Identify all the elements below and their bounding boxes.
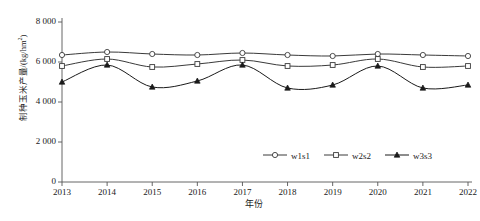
legend-label: w3s3: [412, 152, 432, 161]
data-point-marker: [60, 64, 65, 69]
x-axis-title: 年份: [224, 197, 284, 210]
data-point-marker: [195, 62, 200, 67]
data-point-marker: [105, 57, 110, 62]
y-tick-label: 0: [10, 176, 56, 186]
data-point-marker: [465, 53, 470, 58]
data-point-marker: [150, 65, 155, 70]
y-tick-label: 2 000: [10, 136, 56, 146]
x-tick-label: 2013: [40, 187, 84, 197]
x-tick-label: 2018: [266, 187, 310, 197]
data-point-marker: [285, 52, 290, 57]
data-point-marker: [195, 52, 200, 57]
data-point-marker: [150, 51, 155, 56]
data-point-marker: [375, 57, 380, 62]
chart-legend: w1s1w2s2w3s3: [262, 150, 432, 162]
chart-container: 制种玉米产量/(kg/hm2) 02 0004 0006 0008 000 20…: [0, 0, 480, 221]
data-point-marker: [272, 152, 277, 157]
data-point-marker: [285, 64, 290, 69]
y-tick-label: 6 000: [10, 56, 56, 66]
x-tick-label: 2014: [85, 187, 129, 197]
x-tick-label: 2016: [175, 187, 219, 197]
x-tick-label: 2019: [311, 187, 355, 197]
series-w1s1: [59, 49, 470, 58]
data-point-marker: [330, 53, 335, 58]
data-point-marker: [375, 51, 380, 56]
x-tick-label: 2015: [130, 187, 174, 197]
data-point-marker: [465, 82, 471, 87]
data-point-marker: [420, 52, 425, 57]
x-tick-label: 2021: [401, 187, 445, 197]
y-tick-label: 8 000: [10, 16, 56, 26]
series-w2s2: [60, 57, 471, 70]
y-tick-label: 4 000: [10, 96, 56, 106]
legend-marker-icon: [323, 150, 349, 162]
x-tick-label: 2017: [220, 187, 264, 197]
legend-label: w2s2: [351, 152, 371, 161]
data-point-marker: [334, 153, 339, 158]
x-tick-label: 2022: [446, 187, 480, 197]
data-point-marker: [59, 52, 64, 57]
legend-label: w1s1: [290, 152, 310, 161]
data-point-marker: [240, 50, 245, 55]
data-point-marker: [330, 63, 335, 68]
x-tick-label: 2020: [356, 187, 400, 197]
data-point-marker: [105, 49, 110, 54]
legend-marker-icon: [262, 150, 288, 162]
legend-item-w2s2[interactable]: w2s2: [323, 150, 371, 162]
legend-item-w1s1[interactable]: w1s1: [262, 150, 310, 162]
series-w3s3: [59, 62, 471, 90]
data-point-marker: [420, 65, 425, 70]
data-point-marker: [466, 64, 471, 69]
legend-item-w3s3[interactable]: w3s3: [384, 150, 432, 162]
legend-marker-icon: [384, 150, 410, 162]
